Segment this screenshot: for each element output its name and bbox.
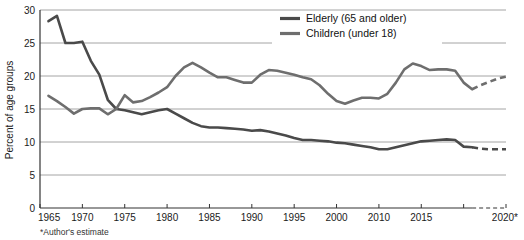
y-tick-label: 10 (24, 137, 36, 148)
y-tick-label: 5 (29, 170, 35, 181)
y-tick-label: 20 (24, 71, 36, 82)
x-tick-label: 1985 (198, 212, 221, 223)
x-tick-label: 1990 (241, 212, 264, 223)
legend-label-2: Children (under 18) (306, 27, 396, 39)
x-tick-label: 1980 (156, 212, 179, 223)
y-axis-title: Percent of age groups (4, 61, 15, 159)
y-tick-label: 30 (24, 5, 36, 16)
x-tick-label: 2010 (368, 212, 391, 223)
x-tick-label: 2020* (492, 212, 518, 223)
x-tick-label: 1975 (114, 212, 137, 223)
x-tick-label: 1965 (38, 212, 61, 223)
chart-canvas: 1965197019751980198519901995200020102015… (0, 0, 524, 240)
y-tick-label: 25 (24, 38, 36, 49)
footnote: *Author's estimate (40, 227, 109, 237)
x-tick-label: 1995 (283, 212, 306, 223)
y-tick-label: 15 (24, 104, 36, 115)
y-tick-label: 0 (29, 203, 35, 214)
poverty-rate-line-chart: 1965197019751980198519901995200020102015… (0, 0, 524, 240)
footnote-text: *Author's estimate (40, 227, 109, 237)
x-tick-label: 2000 (325, 212, 348, 223)
x-tick-label: 2015 (410, 212, 433, 223)
y-axis-title-text: Percent of age groups (4, 61, 15, 159)
legend-label-1: Elderly (65 and older) (306, 12, 406, 24)
legend: Elderly (65 and older)Children (under 18… (272, 11, 442, 47)
plot-background (0, 0, 524, 240)
x-tick-label: 1970 (71, 212, 94, 223)
